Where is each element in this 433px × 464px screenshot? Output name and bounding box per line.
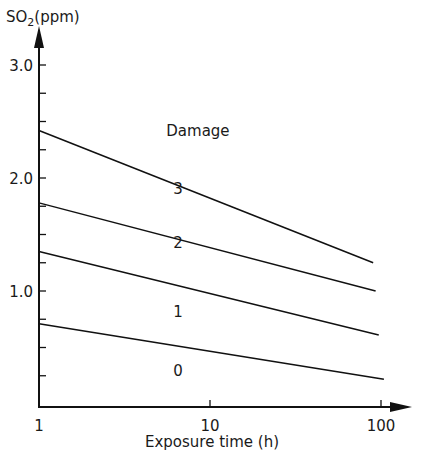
x-ticks: 110100: [34, 400, 395, 435]
region-label: 3: [173, 180, 183, 198]
y-axis-arrow-icon: [34, 26, 44, 48]
x-axis-title: Exposure time (h): [145, 433, 279, 451]
y-tick-label: 2.0: [9, 170, 33, 188]
y-tick-label: 3.0: [9, 57, 33, 75]
y-ticks: 1.02.03.0: [9, 57, 46, 376]
y-tick-label: 1.0: [9, 283, 33, 301]
series-lines: [39, 131, 384, 380]
region-label: 2: [173, 234, 183, 252]
series-line: [39, 324, 384, 379]
series-line: [39, 131, 373, 263]
chart: SO2(ppm) 1.02.03.0 110100 0123Damage Exp…: [0, 0, 433, 464]
x-axis-arrow-icon: [390, 402, 412, 412]
series-line: [39, 251, 379, 335]
region-label: 1: [173, 303, 183, 321]
series-line: [39, 203, 376, 291]
region-label: Damage: [166, 122, 229, 140]
x-tick-label: 1: [34, 417, 44, 435]
y-axis-title: SO2(ppm): [6, 8, 80, 29]
region-label: 0: [173, 362, 183, 380]
x-tick-label: 100: [367, 417, 396, 435]
